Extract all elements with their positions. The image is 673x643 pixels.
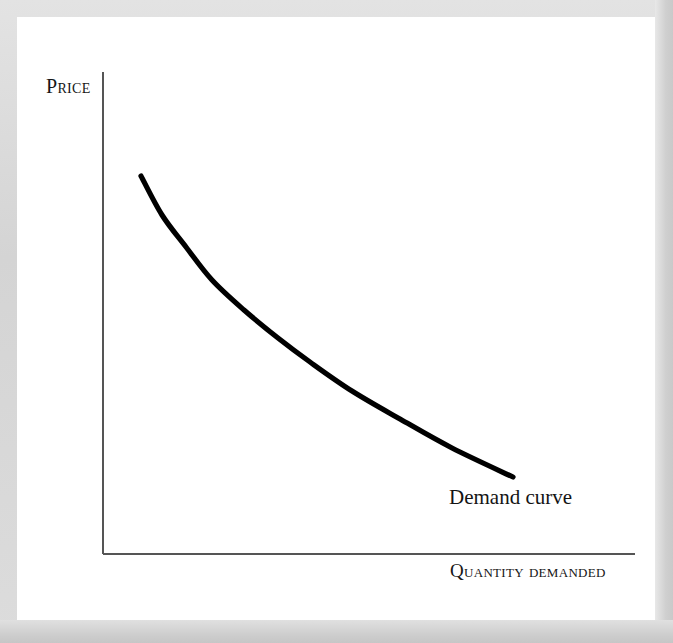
axes-group [103, 72, 635, 554]
demand-curve-path [141, 176, 513, 477]
demand-curve-group [141, 176, 513, 477]
demand-curve-annotation-label: Demand curve [449, 487, 572, 508]
x-axis-title: Quantity demanded [450, 561, 606, 580]
plot-canvas [0, 0, 673, 643]
demand-curve-figure: Price Quantity demanded Demand curve [0, 0, 673, 643]
y-axis-title: Price [46, 76, 91, 96]
